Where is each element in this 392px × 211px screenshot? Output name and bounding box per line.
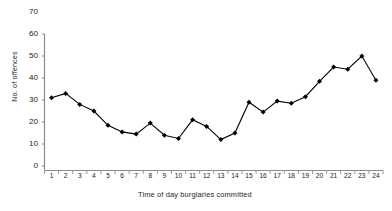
data-series-line [52,56,376,140]
data-point-marker [373,78,378,83]
data-point-marker [232,131,237,136]
data-point-markers [49,54,378,143]
data-point-marker [289,101,294,106]
line-chart: No. of offences 706050403020100 12345678… [0,0,392,211]
plot-area [0,0,392,211]
data-point-marker [120,129,125,134]
data-point-marker [49,95,54,100]
axes [45,34,384,171]
x-axis-title: Time of day burglaries committed [45,190,345,199]
